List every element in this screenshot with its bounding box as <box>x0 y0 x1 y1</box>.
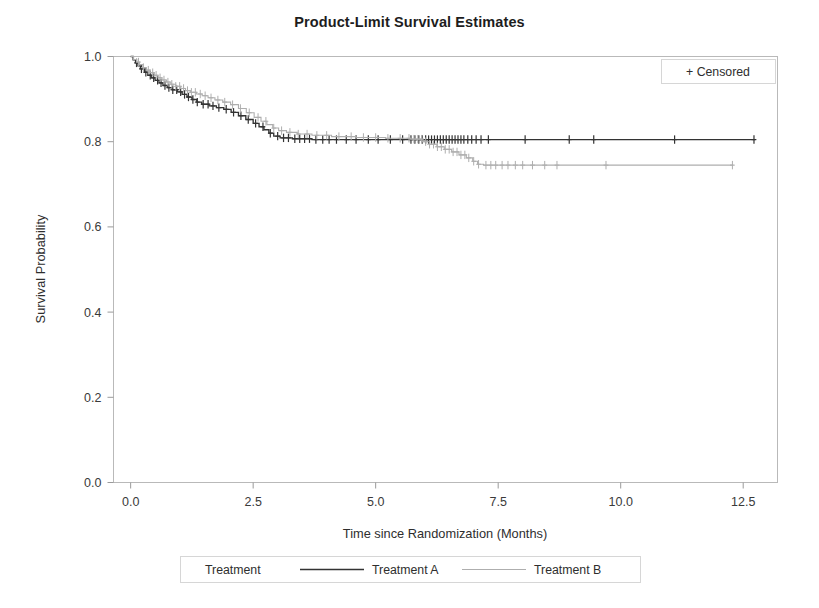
censor-mark <box>211 102 216 110</box>
censor-mark <box>320 135 325 143</box>
x-tick-label: 0.0 <box>122 495 139 509</box>
x-tick-label: 10.0 <box>609 495 633 509</box>
censor-mark <box>253 119 258 127</box>
series-treatment-b <box>131 57 735 170</box>
censor-mark <box>198 90 203 98</box>
censor-mark <box>506 161 511 169</box>
censor-mark <box>203 91 208 99</box>
legend-title: Treatment <box>205 563 261 577</box>
censor-mark <box>247 109 252 117</box>
censor-mark <box>327 135 332 143</box>
censor-mark <box>373 133 378 141</box>
censor-mark <box>216 103 221 111</box>
censor-mark <box>530 161 535 169</box>
censor-mark <box>520 161 525 169</box>
censor-mark <box>752 135 757 143</box>
censor-mark <box>246 115 251 123</box>
censor-mark <box>388 135 393 143</box>
survival-curve <box>131 57 734 166</box>
censor-mark <box>209 94 214 102</box>
censor-mark <box>215 96 220 104</box>
censor-mark <box>488 161 493 169</box>
censor-mark <box>469 135 474 143</box>
censor-mark <box>224 105 229 113</box>
censor-mark <box>474 135 479 143</box>
x-axis-title: Time since Randomization (Months) <box>343 526 547 541</box>
censor-mark <box>201 100 206 108</box>
plot-canvas: 0.00.20.40.60.81.0 0.02.55.07.510.012.5 … <box>0 0 819 608</box>
censor-mark <box>222 98 227 106</box>
censor-mark <box>361 133 366 141</box>
censor-mark <box>239 112 244 120</box>
censor-mark <box>292 135 297 143</box>
censor-mark <box>314 131 319 139</box>
censor-mark <box>400 135 405 143</box>
censor-mark <box>206 100 211 108</box>
censored-annotation-label: + Censored <box>686 65 750 79</box>
censor-mark <box>479 135 484 143</box>
legend-label-treatment-b: Treatment B <box>534 563 601 577</box>
censor-mark <box>500 161 505 169</box>
censor-mark <box>305 130 310 138</box>
plot-frame <box>114 57 778 483</box>
censor-mark <box>281 134 286 142</box>
chart-legend: Treatment Treatment A Treatment B <box>181 557 641 583</box>
censor-mark <box>307 135 312 143</box>
censor-mark <box>275 132 280 140</box>
x-tick-label: 7.5 <box>489 495 506 509</box>
censor-mark <box>567 135 572 143</box>
censor-mark <box>231 108 236 116</box>
y-tick-label: 0.4 <box>84 306 101 320</box>
censored-annotation: + Censored <box>662 60 776 84</box>
censor-mark <box>604 161 609 169</box>
censor-mark <box>376 135 381 143</box>
censor-mark <box>542 161 547 169</box>
y-tick-label: 1.0 <box>84 50 101 64</box>
censor-mark <box>484 161 489 169</box>
x-axis: 0.02.55.07.510.012.5 <box>122 483 755 509</box>
y-tick-label: 0.2 <box>84 391 101 405</box>
censor-mark <box>523 135 528 143</box>
censor-mark <box>366 135 371 143</box>
censor-mark <box>486 135 491 143</box>
x-tick-label: 5.0 <box>367 495 384 509</box>
y-axis: 0.00.20.40.60.81.0 <box>84 50 113 490</box>
y-tick-label: 0.0 <box>84 476 101 490</box>
censor-mark <box>324 131 329 139</box>
censor-mark <box>279 126 284 134</box>
x-tick-label: 2.5 <box>244 495 261 509</box>
censor-mark <box>591 135 596 143</box>
x-tick-label: 12.5 <box>731 495 755 509</box>
y-tick-label: 0.6 <box>84 220 101 234</box>
censor-mark <box>185 86 190 94</box>
censor-mark <box>672 135 677 143</box>
y-tick-label: 0.8 <box>84 135 101 149</box>
censor-mark <box>302 135 307 143</box>
y-axis-title: Survival Probability <box>33 214 48 323</box>
censor-mark <box>493 161 498 169</box>
censor-mark <box>193 88 198 96</box>
survival-chart: Product-Limit Survival Estimates 0.00.20… <box>0 0 819 608</box>
censor-mark <box>555 161 560 169</box>
censor-mark <box>513 161 518 169</box>
censor-mark <box>398 134 403 142</box>
censor-mark <box>313 135 318 143</box>
censor-mark <box>256 113 261 121</box>
legend-label-treatment-a: Treatment A <box>372 563 439 577</box>
series-layer <box>131 57 757 170</box>
censor-mark <box>730 161 735 169</box>
censor-mark <box>386 134 391 142</box>
